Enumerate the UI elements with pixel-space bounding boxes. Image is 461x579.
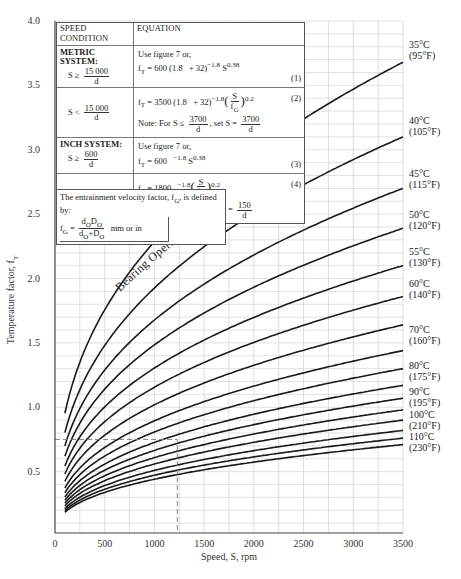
fraction-den: d [84, 113, 109, 122]
x-tick-label: 2000 [244, 538, 264, 549]
eq3-intro: Use figure 7 or, [138, 142, 300, 152]
y-tick-label: 2.0 [28, 273, 41, 284]
temperature-labels: 35°C(95°F)40°C(105°F)45°C(115°F)50°C(120… [409, 39, 440, 454]
x-tick-label: 3000 [343, 538, 363, 549]
temp-label-c: 40°C [409, 115, 430, 126]
temp-label-f: (175°F) [409, 371, 440, 383]
condition-lhs: S ≥ [68, 70, 80, 80]
temp-label-c: 110°C [409, 431, 435, 442]
fraction-den: d [84, 160, 99, 169]
temp-label-f: (105°F) [409, 126, 440, 138]
x-tick-label: 2500 [294, 538, 314, 549]
temp-label-f: (230°F) [409, 442, 440, 454]
x-axis-label: Speed, S, rpm [201, 551, 257, 562]
equation-number-2: (2) [291, 94, 301, 104]
y-tick-label: 1.5 [28, 337, 41, 348]
y-tick-label: 3.0 [28, 144, 41, 155]
temp-label-c: 35°C [409, 39, 430, 50]
equation-2: fT = 3500 (1.8 + 32)−1.8(SfG)0.2 [138, 92, 300, 113]
equation-1: fT = 600 (1.8 + 32)−1.8 S0.38 [138, 61, 300, 76]
definition-formula: fG = dODOdO+DO mm or in [60, 217, 169, 243]
temp-label-c: 50°C [409, 209, 430, 220]
equation-number-4: (4) [291, 180, 301, 190]
y-tick-label: 2.5 [28, 208, 41, 219]
temp-label-c: 55°C [409, 246, 430, 257]
x-tick-label: 500 [97, 538, 112, 549]
temp-label-f: (195°F) [409, 397, 440, 409]
header-equation: EQUATION [134, 23, 304, 45]
temp-label-f: (115°F) [409, 179, 440, 191]
table-header-row: SPEED CONDITION EQUATION [57, 23, 304, 45]
x-tick-label: 1000 [144, 538, 164, 549]
units-text: mm or in [111, 223, 142, 233]
temp-label-f: (160°F) [409, 335, 440, 347]
definition-text: The entrainment velocity factor, fG, is … [60, 192, 222, 215]
condition-lhs: S ≥ [68, 153, 80, 163]
equation-number-1: (1) [291, 74, 301, 84]
temp-label-c: 90°C [409, 386, 430, 397]
metric-row-1: METRIC SYSTEM: S ≥ 15 000d Use figure 7 … [57, 45, 304, 88]
y-tick-label: 1.0 [28, 401, 41, 412]
note-2: Note: For S ≤ 3700d, set S = 3700d [138, 115, 300, 133]
y-tick-label: 3.5 [28, 79, 41, 90]
temp-label-c: 80°C [409, 360, 430, 371]
metric-row-2: S < 15 000d fT = 3500 (1.8 + 32)−1.8(SfG… [57, 87, 304, 137]
eq1-intro: Use figure 7 or, [138, 50, 300, 60]
fraction-den: d [84, 77, 109, 86]
header-speed-condition: SPEED CONDITION [57, 23, 134, 45]
metric-system-title: METRIC SYSTEM: [60, 48, 130, 68]
temperature-curve [65, 369, 403, 493]
x-tick-label: 3500 [393, 538, 413, 549]
temp-label-f: (95°F) [409, 50, 435, 62]
x-tick-label: 1500 [194, 538, 214, 549]
y-tick-label: 0.5 [28, 466, 41, 477]
temp-label-f: (130°F) [409, 257, 440, 269]
entrainment-definition-box: The entrainment velocity factor, fG, is … [56, 189, 226, 245]
temp-label-c: 45°C [409, 168, 430, 179]
equation-number-3: (3) [291, 160, 301, 170]
temperature-curve [65, 297, 403, 475]
temperature-curve [65, 228, 403, 456]
y-axis-label: Temperature factor, fT [5, 255, 20, 344]
temp-label-c: 100°C [409, 409, 435, 420]
inch-row-1: INCH SYSTEM: S ≥ 600d Use figure 7 or, f… [57, 137, 304, 172]
temp-label-c: 60°C [409, 278, 430, 289]
temperature-curve [65, 430, 403, 508]
x-tick-label: 0 [53, 538, 58, 549]
equation-3: fT = 600 −1.8 S0.38 [138, 154, 300, 169]
y-tick-label: 4.0 [28, 15, 41, 26]
condition-lhs: S < [68, 107, 80, 117]
temp-label-c: 70°C [409, 324, 430, 335]
temp-label-f: (140°F) [409, 289, 440, 301]
temp-label-f: (120°F) [409, 220, 440, 232]
